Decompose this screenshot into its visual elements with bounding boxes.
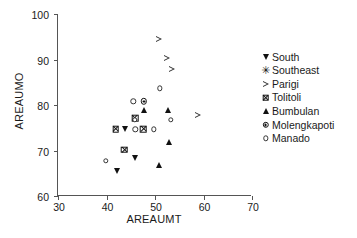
legend-item-tolitoli[interactable]: Tolitoli xyxy=(259,91,355,105)
y-tick-label: 80 xyxy=(37,101,49,112)
plot-area: 60708090100 3040506070 xyxy=(57,14,251,196)
open-right-triangle-icon xyxy=(259,77,272,90)
legend-item-parigi[interactable]: Parigi xyxy=(259,77,355,91)
x-tick: 70 xyxy=(252,196,253,200)
x-tick: 60 xyxy=(204,196,205,200)
y-tick: 90 xyxy=(54,60,58,61)
legend-item-label: Parigi xyxy=(272,79,299,90)
crossed-square-icon xyxy=(259,91,272,104)
y-tick-label: 60 xyxy=(37,192,49,203)
x-tick-label: 50 xyxy=(150,202,162,213)
y-tick: 80 xyxy=(54,105,58,106)
x-tick-label: 70 xyxy=(247,202,259,213)
x-tick: 40 xyxy=(107,196,108,200)
legend: South✳SoutheastParigiTolitoliBumbulanMol… xyxy=(259,50,355,145)
legend-item-label: Southeast xyxy=(272,65,319,76)
y-tick-label: 100 xyxy=(31,10,49,21)
open-circle-icon xyxy=(259,132,272,145)
legend-item-label: South xyxy=(272,52,299,63)
y-tick: 100 xyxy=(54,14,58,15)
scatter-plot-figure: 60708090100 3040506070 AREAUMT AREAUMO S… xyxy=(0,0,357,238)
legend-item-molengkapoti[interactable]: Molengkapoti xyxy=(259,118,355,132)
legend-item-bumbulan[interactable]: Bumbulan xyxy=(259,104,355,118)
y-tick-label: 70 xyxy=(37,146,49,157)
filled-up-triangle-icon xyxy=(259,105,272,118)
legend-item-label: Tolitoli xyxy=(272,92,301,103)
filled-down-triangle-icon xyxy=(259,50,272,63)
legend-item-south[interactable]: South xyxy=(259,50,355,64)
y-axis-title: AREAUMO xyxy=(13,46,25,156)
dotted-circle-icon xyxy=(259,118,272,131)
x-axis-title: AREAUMT xyxy=(57,213,251,225)
legend-item-southeast[interactable]: ✳Southeast xyxy=(259,64,355,78)
x-tick-label: 30 xyxy=(53,202,65,213)
asterisk-icon: ✳ xyxy=(259,64,272,77)
legend-item-label: Molengkapoti xyxy=(272,120,334,131)
legend-item-label: Manado xyxy=(272,133,310,144)
legend-item-manado[interactable]: Manado xyxy=(259,132,355,146)
x-tick-label: 40 xyxy=(102,202,114,213)
x-tick: 30 xyxy=(58,196,59,200)
y-tick-label: 90 xyxy=(37,55,49,66)
x-tick-label: 60 xyxy=(199,202,211,213)
y-tick: 70 xyxy=(54,151,58,152)
x-tick: 50 xyxy=(155,196,156,200)
legend-item-label: Bumbulan xyxy=(272,106,319,117)
